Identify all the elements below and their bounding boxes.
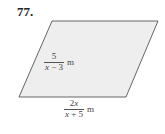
base-length-numerator: 2x (69, 99, 80, 108)
side-length-label: 5 x − 3 m (44, 52, 74, 72)
side-length-unit: m (67, 57, 74, 67)
base-length-fraction: 2x x + 5 (64, 99, 84, 119)
side-length-fraction: 5 x − 3 (44, 52, 64, 72)
base-length-denominator: x + 5 (64, 110, 84, 119)
side-length-numerator: 5 (51, 52, 58, 61)
base-length-unit: m (87, 104, 94, 114)
base-length-label: 2x x + 5 m (64, 99, 94, 119)
parallelogram (19, 21, 158, 97)
side-length-denominator: x − 3 (44, 63, 64, 72)
